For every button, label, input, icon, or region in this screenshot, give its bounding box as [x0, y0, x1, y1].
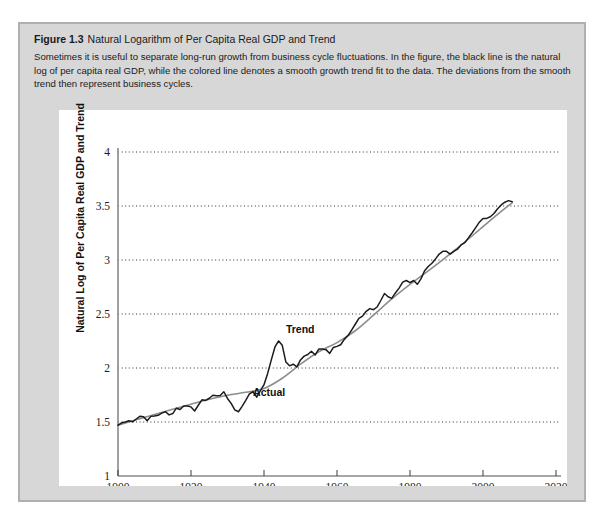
ytick-label-2.5: 2.5	[96, 308, 111, 320]
y-axis-title: Natural Log of Per Capita Real GDP and T…	[74, 88, 86, 348]
x-tick-labels: 1900 1920 1940 1960 1980 2000 2020	[107, 481, 568, 486]
figure-caption-text: Sometimes it is useful to separate long-…	[34, 50, 572, 91]
figure-page: Figure 1.3Natural Logarithm of Per Capit…	[0, 0, 604, 523]
y-tick-labels: 4 3.5 3 2.5 2 1.5 1	[96, 146, 111, 482]
ytick-label-3.5: 3.5	[96, 200, 111, 212]
x-tick-marks	[118, 470, 556, 476]
ytick-label-1.5: 1.5	[96, 416, 111, 428]
xtick-label-2020: 2020	[545, 481, 568, 486]
axes	[118, 148, 561, 476]
xtick-label-1960: 1960	[326, 481, 349, 486]
ytick-label-4: 4	[104, 146, 110, 158]
trend-annotation-label: Trend	[286, 323, 315, 335]
figure-number: Figure 1.3	[34, 33, 84, 45]
chart-svg: 4 3.5 3 2.5 2 1.5 1 1900 1920 1940 1960 …	[59, 110, 567, 486]
gridlines	[118, 152, 559, 422]
figure-panel: Figure 1.3Natural Logarithm of Per Capit…	[18, 22, 586, 502]
xtick-label-1920: 1920	[180, 481, 203, 486]
xtick-label-1900: 1900	[107, 481, 130, 486]
xtick-label-2000: 2000	[472, 481, 495, 486]
actual-line-series	[118, 201, 512, 426]
page-title: Natural Logarithm of Per Capita Real GDP…	[88, 33, 336, 45]
figure-title-line: Figure 1.3Natural Logarithm of Per Capit…	[34, 32, 572, 47]
ytick-label-3: 3	[104, 254, 110, 266]
xtick-label-1980: 1980	[399, 481, 422, 486]
actual-annotation-label: Actual	[253, 386, 285, 398]
plot-card: 4 3.5 3 2.5 2 1.5 1 1900 1920 1940 1960 …	[59, 110, 567, 486]
ytick-label-2: 2	[104, 362, 110, 374]
xtick-label-1940: 1940	[253, 481, 276, 486]
figure-caption: Figure 1.3Natural Logarithm of Per Capit…	[34, 32, 572, 91]
